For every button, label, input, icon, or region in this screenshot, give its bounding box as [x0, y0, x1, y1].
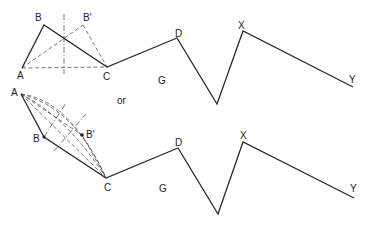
top-label-g: G [158, 75, 166, 86]
bottom-point-b [42, 135, 45, 138]
top-dashed-ac [22, 67, 107, 68]
bottom-dashed-ab-prime [21, 94, 82, 135]
top-dashed-b-prime-c [83, 25, 107, 67]
bottom-figure: A B B' C D G X Y [11, 87, 357, 214]
bottom-label-y: Y [350, 183, 357, 194]
top-label-b: B [35, 12, 42, 23]
bottom-label-x: X [240, 130, 247, 141]
top-label-x: X [238, 20, 245, 31]
top-label-c: C [103, 71, 110, 82]
bottom-label-b-prime: B' [86, 129, 95, 140]
bottom-dashed-b-prime-c [82, 135, 106, 178]
top-label-a: A [17, 70, 24, 81]
bottom-label-d: D [175, 137, 182, 148]
top-label-d: D [175, 28, 182, 39]
bottom-symmetry-axis-2 [44, 103, 66, 137]
top-figure: A B B' C D G X Y [17, 12, 356, 104]
bottom-point-b-prime [80, 133, 84, 137]
top-label-y: Y [349, 74, 356, 85]
bottom-label-c: C [104, 182, 111, 193]
bottom-label-a: A [11, 87, 18, 98]
top-dashed-ab-prime [22, 25, 83, 68]
bottom-solid-path [21, 94, 354, 214]
bottom-label-b: B [33, 133, 40, 144]
top-solid-path [22, 25, 353, 104]
connector-or: or [117, 95, 127, 106]
bottom-label-g: G [159, 183, 167, 194]
polyline-diagram: A B B' C D G X Y or A B B' C D G X Y [0, 0, 372, 227]
top-label-b-prime: B' [83, 12, 92, 23]
